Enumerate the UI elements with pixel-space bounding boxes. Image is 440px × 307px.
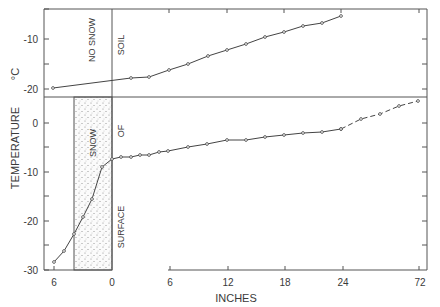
snow-region — [74, 97, 112, 270]
data-point — [302, 132, 305, 135]
x-axis-title: INCHES — [215, 292, 257, 304]
data-point — [206, 143, 209, 146]
y-tick-labels: -10 -20 0 -10 -20 -30 — [24, 34, 39, 276]
xtick-right-12: 12 — [222, 277, 234, 288]
xtick-left-6: 6 — [51, 277, 57, 288]
y-ticks — [44, 9, 49, 270]
data-point — [130, 77, 133, 80]
data-point — [158, 151, 161, 154]
data-point — [111, 158, 114, 161]
xtick-right-72: 72 — [414, 277, 426, 288]
data-point — [226, 139, 229, 142]
data-point — [417, 100, 420, 103]
data-point — [148, 76, 151, 79]
data-point — [130, 156, 133, 159]
data-point — [360, 118, 363, 121]
xtick-right-18: 18 — [279, 277, 291, 288]
data-point — [101, 166, 104, 169]
x-ticks-top — [169, 9, 419, 13]
xtick-right-24: 24 — [337, 277, 349, 288]
data-point — [226, 49, 229, 52]
ytick-bot-neg10: -10 — [24, 167, 39, 178]
label-soil: SOIL — [116, 35, 126, 56]
data-point — [264, 136, 267, 139]
data-point — [148, 154, 151, 157]
temperature-chart: -10 -20 0 -10 -20 -30 6 0 6 12 18 24 72 … — [0, 0, 440, 307]
data-point — [340, 15, 343, 18]
data-point — [167, 150, 170, 153]
data-point — [139, 154, 142, 157]
data-point — [245, 43, 248, 46]
label-no-snow: NO SNOW — [87, 17, 97, 62]
ytick-bot-neg20: -20 — [24, 216, 39, 227]
data-point — [73, 233, 76, 236]
data-point — [283, 134, 286, 137]
data-point — [120, 156, 123, 159]
data-point — [91, 198, 94, 201]
y-ticks-right — [422, 39, 427, 245]
data-point — [63, 250, 66, 253]
y-axis-unit: °C — [9, 68, 21, 80]
data-point — [52, 87, 55, 90]
ytick-top-neg10: -10 — [24, 34, 39, 45]
chart-container: -10 -20 0 -10 -20 -30 6 0 6 12 18 24 72 … — [0, 0, 440, 307]
data-point — [264, 36, 267, 39]
xtick-right-6: 6 — [167, 277, 173, 288]
data-point — [398, 105, 401, 108]
ytick-bot-neg30: -30 — [24, 265, 39, 276]
data-point — [187, 146, 190, 149]
ytick-top-neg20: -20 — [24, 84, 39, 95]
data-point — [302, 25, 305, 28]
xtick-left-0: 0 — [109, 277, 115, 288]
y-axis-title: TEMPERATURE — [9, 107, 21, 189]
data-point — [321, 131, 324, 134]
label-of: OF — [116, 124, 126, 137]
ytick-bot-0: 0 — [32, 118, 38, 129]
label-snow: SNOW — [88, 128, 98, 157]
data-point — [340, 128, 343, 131]
data-point — [321, 22, 324, 25]
data-point — [82, 216, 85, 219]
data-point — [283, 31, 286, 34]
data-point — [168, 69, 171, 72]
data-point — [53, 261, 56, 264]
data-point — [379, 113, 382, 116]
x-tick-labels: 6 0 6 12 18 24 72 — [51, 277, 426, 288]
label-surface: SURFACE — [116, 206, 126, 249]
data-point — [245, 139, 248, 142]
data-point — [187, 63, 190, 66]
data-point — [207, 55, 210, 58]
